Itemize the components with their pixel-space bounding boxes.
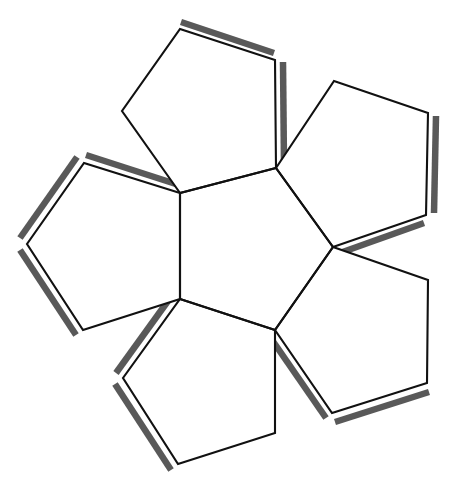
- diagram-canvas: [0, 0, 455, 492]
- pentagonal-net-svg: [0, 0, 455, 492]
- left-pentagon-fill: [27, 163, 180, 330]
- face-fill-layer: [27, 29, 428, 464]
- tab-top-right-edge: [283, 62, 284, 166]
- tab-upper-right-edge: [434, 116, 436, 213]
